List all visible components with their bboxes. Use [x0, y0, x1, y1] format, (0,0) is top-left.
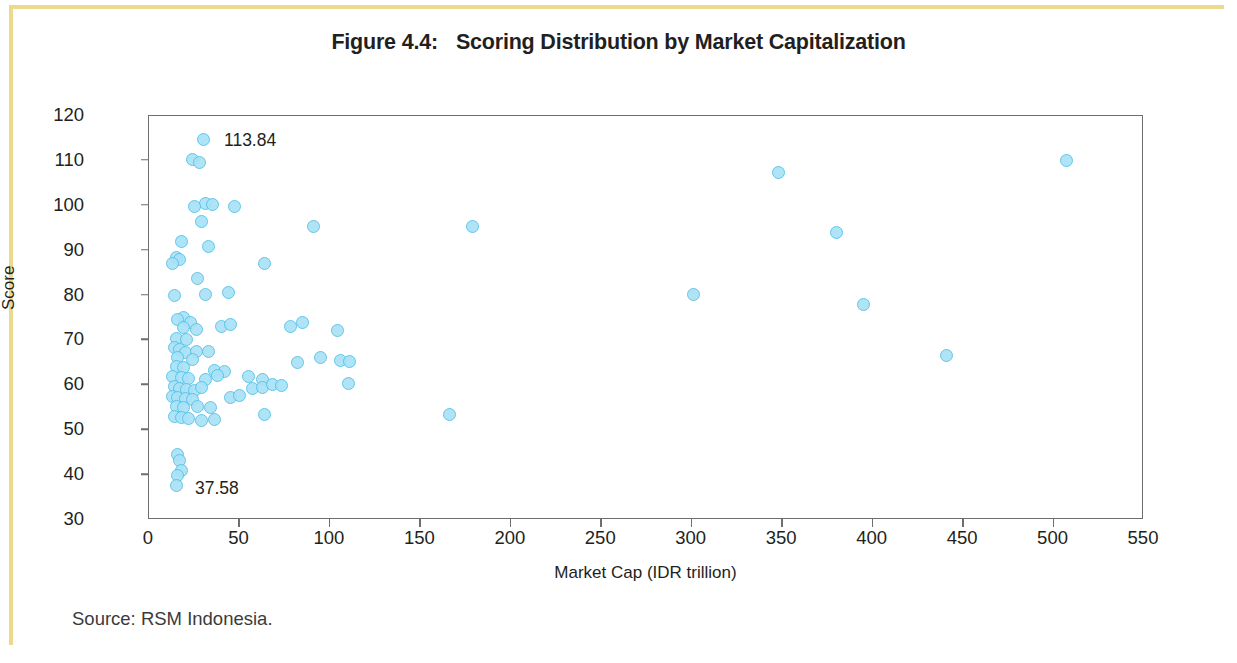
data-point	[857, 298, 870, 311]
data-point	[202, 345, 215, 358]
x-tick-label: 550	[1103, 527, 1183, 549]
x-tick-label: 350	[741, 527, 821, 549]
x-tick-mark	[238, 519, 240, 527]
data-point	[204, 401, 217, 414]
data-point	[291, 356, 304, 369]
data-point	[228, 200, 241, 213]
x-tick-label: 50	[198, 527, 278, 549]
data-point	[168, 289, 181, 302]
data-point	[191, 272, 204, 285]
data-point	[206, 198, 219, 211]
data-point	[211, 369, 224, 382]
source-note: Source: RSM Indonesia.	[72, 608, 273, 630]
figure-number: Figure 4.4:	[331, 30, 438, 54]
data-point	[275, 379, 288, 392]
data-point	[188, 200, 201, 213]
scatter-plot	[148, 115, 1143, 519]
plot-surface	[149, 116, 1142, 518]
x-tick-label: 250	[560, 527, 640, 549]
y-axis-label: Score	[0, 266, 19, 310]
data-point	[466, 220, 479, 233]
x-tick-mark	[600, 519, 602, 527]
y-tick-label: 100	[24, 194, 84, 216]
x-tick-label: 400	[832, 527, 912, 549]
data-point	[1060, 154, 1073, 167]
figure-page: Figure 4.4:Scoring Distribution by Marke…	[0, 0, 1237, 663]
data-point	[258, 408, 271, 421]
data-point	[166, 257, 179, 270]
x-tick-label: 100	[289, 527, 369, 549]
y-tick-label: 50	[24, 418, 84, 440]
data-point	[331, 324, 344, 337]
data-point	[687, 288, 700, 301]
x-tick-mark	[419, 519, 421, 527]
data-point	[342, 377, 355, 390]
data-point	[195, 215, 208, 228]
y-tick-label: 90	[24, 239, 84, 261]
data-point	[195, 414, 208, 427]
data-point	[202, 240, 215, 253]
x-axis-label: Market Cap (IDR trillion)	[148, 563, 1143, 583]
figure-title-text: Scoring Distribution by Market Capitaliz…	[456, 30, 906, 54]
x-tick-mark	[510, 519, 512, 527]
data-point	[940, 349, 953, 362]
x-tick-mark	[329, 519, 331, 527]
data-point	[193, 156, 206, 169]
data-point	[199, 288, 212, 301]
x-tick-mark	[962, 519, 964, 527]
x-tick-label: 500	[1013, 527, 1093, 549]
x-tick-mark	[872, 519, 874, 527]
y-tick-label: 120	[24, 104, 84, 126]
data-point	[242, 370, 255, 383]
y-tick-label: 70	[24, 328, 84, 350]
data-point	[258, 257, 271, 270]
data-point	[190, 323, 203, 336]
data-point	[197, 133, 210, 146]
chart-annotation: 113.84	[224, 130, 276, 151]
data-point	[443, 408, 456, 421]
x-tick-label: 150	[379, 527, 459, 549]
data-point	[307, 220, 320, 233]
y-tick-label: 80	[24, 284, 84, 306]
chart-annotation: 37.58	[195, 478, 239, 499]
x-tick-label: 450	[922, 527, 1002, 549]
y-tick-label: 40	[24, 463, 84, 485]
x-tick-label: 0	[108, 527, 188, 549]
data-point	[224, 318, 237, 331]
data-point	[182, 412, 195, 425]
x-tick-mark	[781, 519, 783, 527]
y-tick-label: 60	[24, 373, 84, 395]
data-point	[222, 286, 235, 299]
data-point	[170, 479, 183, 492]
y-tick-label: 30	[24, 508, 84, 530]
x-tick-label: 300	[651, 527, 731, 549]
data-point	[208, 413, 221, 426]
y-tick-label: 110	[24, 149, 84, 171]
x-tick-mark	[691, 519, 693, 527]
data-point	[314, 351, 327, 364]
data-point	[233, 389, 246, 402]
data-point	[772, 166, 785, 179]
data-point	[830, 226, 843, 239]
x-tick-mark	[1053, 519, 1055, 527]
data-point	[296, 316, 309, 329]
figure-title: Figure 4.4:Scoring Distribution by Marke…	[0, 30, 1237, 55]
data-point	[175, 235, 188, 248]
data-point	[284, 320, 297, 333]
x-tick-label: 200	[470, 527, 550, 549]
data-point	[343, 355, 356, 368]
data-point	[195, 381, 208, 394]
data-point	[191, 400, 204, 413]
